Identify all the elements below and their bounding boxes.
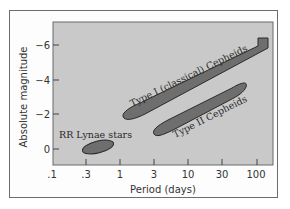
y-axis-title: Absolute magnitude: [18, 47, 29, 148]
x-tick-label: 30: [216, 169, 229, 180]
x-tick-label: 100: [246, 169, 265, 180]
chart: −6 −4 −2 0 .1 .3 1 3 10 30 100 Period (d…: [0, 0, 290, 209]
y-tick-label: −4: [35, 75, 50, 86]
y-tick-label: −2: [35, 109, 50, 120]
x-tick-label: 3: [151, 169, 157, 180]
rr-lynae-label: RR Lynae stars: [59, 129, 132, 140]
x-tick-label: .1: [47, 169, 57, 180]
y-tick-label: −6: [35, 40, 50, 51]
y-tick-label: 0: [44, 144, 50, 155]
x-tick-label: 10: [182, 169, 195, 180]
x-tick-label: 1: [117, 169, 123, 180]
x-tick-label: .3: [81, 169, 91, 180]
x-axis-title: Period (days): [130, 184, 196, 195]
